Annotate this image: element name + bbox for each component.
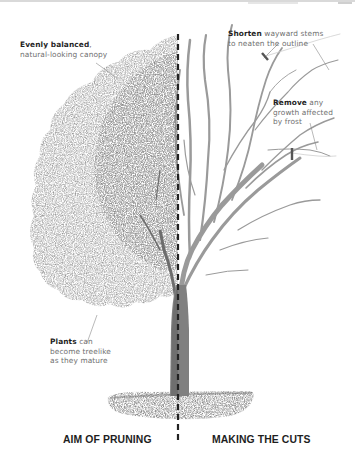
bare-branches (176, 25, 341, 395)
annotation-plants: Plants can become treelike as they matur… (50, 337, 111, 366)
annotation-remove-bold: Remove (273, 98, 307, 107)
annotation-shorten: Shorten wayward stems to neaten the outl… (228, 29, 323, 48)
annotation-remove-line3: by frost (273, 117, 333, 127)
annotation-plants-line3: as they mature (50, 356, 111, 366)
annotation-plants-line1: can (77, 337, 93, 346)
annotation-canopy-line2: natural-looking canopy (20, 50, 107, 60)
annotation-remove-line2: growth affected (273, 108, 333, 118)
annotation-shorten-bold: Shorten (228, 29, 262, 38)
annotation-canopy: Evenly balanced, natural-looking canopy (20, 40, 107, 59)
pruning-illustration (0, 0, 355, 468)
tree-trunk (170, 285, 189, 396)
cut-marker-shorten (262, 53, 268, 60)
annotation-remove: Remove any growth affected by frost (273, 98, 333, 127)
annotation-shorten-line2: to neaten the outline (228, 39, 323, 49)
annotation-canopy-punct: , (89, 40, 91, 49)
heading-making-the-cuts: MAKING THE CUTS (212, 434, 310, 445)
annotation-plants-line2: become treelike (50, 347, 111, 357)
heading-aim-of-pruning: AIM OF PRUNING (63, 434, 152, 445)
annotation-plants-bold: Plants (50, 337, 77, 346)
annotation-canopy-bold: Evenly balanced (20, 40, 89, 49)
annotation-shorten-line1: wayward stems (262, 29, 324, 38)
annotation-remove-line1: any (307, 98, 323, 107)
